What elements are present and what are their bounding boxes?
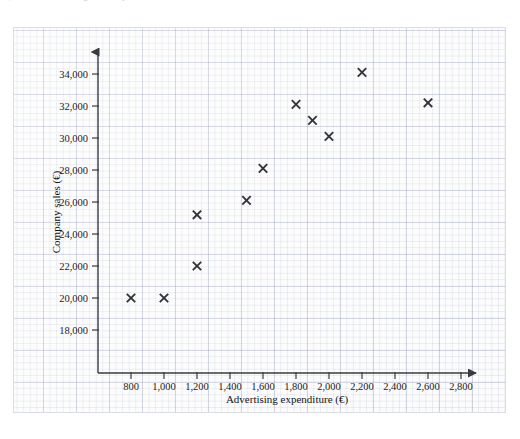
data-point-marker — [325, 132, 333, 140]
data-point-marker — [160, 294, 168, 302]
data-point-marker — [308, 116, 316, 124]
y-axis-tick-label: 18,000 — [59, 325, 88, 336]
x-axis-tick-label: 1,400 — [218, 381, 242, 392]
data-point-marker — [292, 100, 300, 108]
y-axis-tick-label: 34,000 — [59, 69, 88, 80]
x-axis-tick-label: 1,200 — [185, 381, 209, 392]
x-axis-tick-label: 2,400 — [383, 381, 407, 392]
data-point-marker — [127, 294, 135, 302]
data-point-marker — [193, 211, 201, 219]
x-axis-title: Advertising expenditure (€) — [226, 393, 349, 406]
y-axis-tick-label: 32,000 — [59, 101, 88, 112]
data-point-markers — [127, 68, 432, 302]
y-axis-tick-label: 28,000 — [59, 165, 88, 176]
y-axis-tick-label: 20,000 — [59, 293, 88, 304]
x-axis-tick-label: 1,000 — [152, 381, 176, 392]
x-axis-tick-label: 1,600 — [251, 381, 275, 392]
x-axis-tick-label: 800 — [123, 381, 139, 392]
data-point-marker — [424, 99, 432, 107]
x-axis-tick-label: 1,800 — [284, 381, 308, 392]
data-point-marker — [259, 164, 267, 172]
chart-axes — [98, 52, 476, 373]
x-axis-tick-label: 2,200 — [350, 381, 374, 392]
y-axis-tick-label: 22,000 — [59, 261, 88, 272]
y-axis-title: Company sales (€) — [50, 170, 63, 253]
x-axis-tick-labels: 8001,0001,2001,4001,6001,8002,0002,2002,… — [123, 381, 473, 392]
x-axis-tick-label: 2,600 — [416, 381, 440, 392]
scatter-chart: 18,00020,00022,00024,00026,00028,00030,0… — [0, 0, 520, 439]
x-axis-tick-label: 2,800 — [449, 381, 473, 392]
x-axis-tick-label: 2,000 — [317, 381, 341, 392]
y-axis-tick-label: 24,000 — [59, 229, 88, 240]
data-point-marker — [193, 262, 201, 270]
data-point-marker — [242, 196, 250, 204]
y-axis-tick-label: 30,000 — [59, 133, 88, 144]
y-axis-tick-label: 26,000 — [59, 197, 88, 208]
data-point-marker — [358, 68, 366, 76]
y-axis-tick-labels: 18,00020,00022,00024,00026,00028,00030,0… — [59, 69, 88, 336]
